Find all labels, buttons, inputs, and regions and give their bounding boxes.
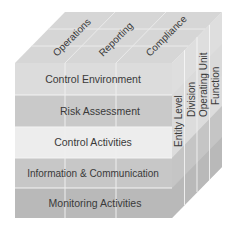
structure-label-division: Division (186, 82, 197, 117)
structure-label-entity-level: Entity Level (173, 95, 184, 147)
component-label-control-environment: Control Environment (45, 73, 141, 85)
component-label-monitoring-activities: Monitoring Activities (49, 197, 142, 209)
front-face: Control Environment Risk Assessment Cont… (15, 63, 172, 218)
structure-label-operating-unit: Operating Unit (198, 52, 209, 117)
component-label-control-activities: Control Activities (54, 136, 132, 148)
coso-cube-diagram: Operations Reporting Compliance Entity L… (0, 0, 236, 230)
component-label-information-communication: Information & Communication (27, 168, 159, 179)
structure-label-function: Function (210, 67, 221, 105)
component-label-risk-assessment: Risk Assessment (60, 105, 140, 117)
